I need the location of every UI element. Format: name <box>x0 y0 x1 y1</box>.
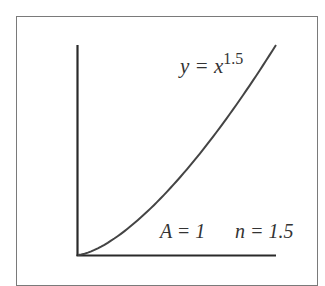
param-a-label: A = 1 <box>158 220 205 242</box>
curve-label-exponent: 1.5 <box>223 50 243 67</box>
curve-label: y = x1.5 <box>178 50 243 78</box>
param-n-label: n = 1.5 <box>235 220 294 242</box>
